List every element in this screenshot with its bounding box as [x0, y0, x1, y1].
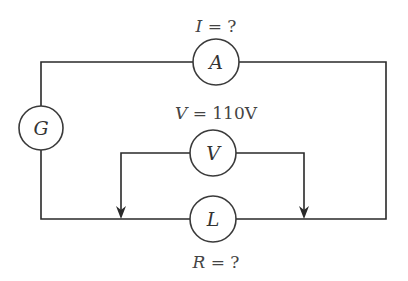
ammeter: A I = ?: [193, 16, 239, 85]
wire-top-right-bottom-right: [236, 62, 386, 219]
current-label: I = ?: [195, 16, 237, 36]
wire-voltmeter-right: [236, 153, 304, 212]
load-symbol: L: [206, 208, 220, 230]
ammeter-symbol: A: [207, 51, 223, 73]
wire-voltmeter-left: [121, 153, 190, 212]
voltmeter-symbol: V: [206, 142, 222, 164]
wire-left-bottom-left: [41, 150, 190, 219]
voltmeter: V V = 110V: [175, 103, 258, 176]
voltage-label: V = 110V: [175, 103, 258, 123]
load: L R = ?: [190, 196, 239, 272]
generator: G: [19, 106, 63, 150]
resistance-label: R = ?: [192, 252, 240, 272]
circuit-diagram: A I = ? V V = 110V L R = ? G: [0, 0, 408, 281]
generator-symbol: G: [33, 117, 48, 139]
wire-top-left: [41, 62, 193, 106]
